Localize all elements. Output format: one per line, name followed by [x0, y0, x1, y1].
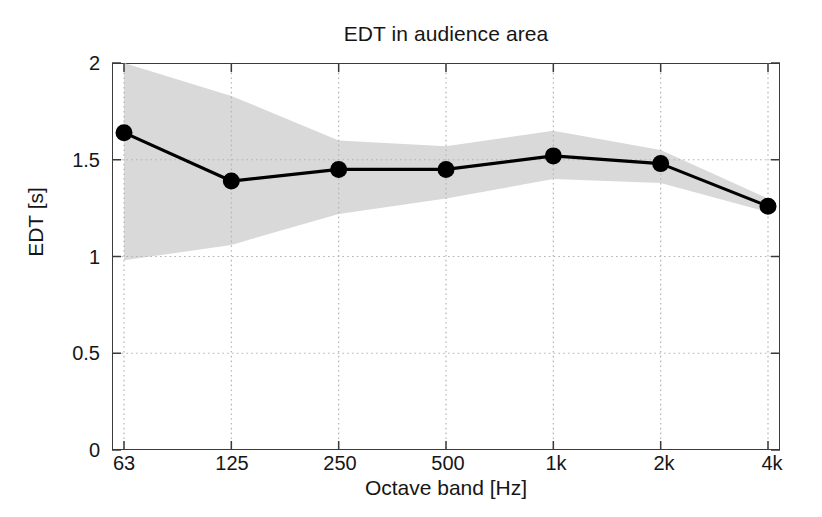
chart-title: EDT in audience area	[112, 22, 780, 46]
y-tick-label-1p5: 1.5	[40, 148, 100, 171]
x-axis-label: Octave band [Hz]	[112, 476, 780, 500]
x-tick-label-63: 63	[84, 452, 164, 475]
y-tick-label-2: 2	[40, 52, 100, 75]
y-tick-label-1: 1	[40, 245, 100, 268]
x-tick-label-2k: 2k	[624, 452, 704, 475]
x-tick-label-250: 250	[300, 452, 380, 475]
plot-area	[112, 63, 780, 450]
y-tick-label-0p5: 0.5	[40, 342, 100, 365]
x-tick-label-4k: 4k	[732, 452, 812, 475]
x-tick-label-125: 125	[192, 452, 272, 475]
x-tick-label-1k: 1k	[516, 452, 596, 475]
chart-figure: EDT in audience area EDT [s] Octave band…	[0, 0, 822, 517]
x-tick-label-500: 500	[408, 452, 488, 475]
